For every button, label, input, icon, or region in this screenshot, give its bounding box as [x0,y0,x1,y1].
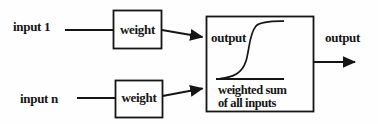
output-label: output [325,30,361,45]
input-n-label: input n [20,91,59,106]
activation-xaxis-label-line2: of all inputs [218,96,277,110]
diagram-canvas: input 1 weight input n weight output wei… [0,0,378,124]
input-1-label: input 1 [13,19,50,34]
arrow-weight1-to-activation-icon [162,30,203,37]
arrow-weight2-to-activation-icon [163,89,203,97]
activation-yaxis-label: output [211,30,247,45]
weight-2-label: weight [121,90,157,105]
neuron-diagram: input 1 weight input n weight output wei… [0,0,378,124]
weight-1-label: weight [120,22,156,37]
activation-xaxis-label-line1: weighted sum [218,83,287,97]
